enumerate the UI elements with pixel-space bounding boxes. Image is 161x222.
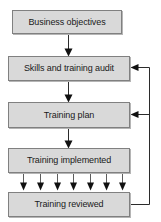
edge-audit-to-plan — [65, 81, 73, 103]
node-label-business-objectives: Business objectives — [28, 18, 105, 27]
node-label-training-reviewed: Training reviewed — [35, 200, 104, 209]
edge-objectives-to-audit — [65, 34, 73, 57]
node-label-training-implemented: Training implemented — [27, 156, 111, 165]
node-label-skills-training-audit: Skills and training audit — [24, 64, 114, 73]
node-training-plan[interactable]: Training plan — [8, 102, 130, 128]
edge-plan-to-implemented — [65, 128, 73, 149]
edge-implemented-to-reviewed — [20, 173, 126, 191]
node-training-reviewed[interactable]: Training reviewed — [8, 192, 130, 217]
node-business-objectives[interactable]: Business objectives — [12, 10, 122, 34]
edge-reviewed-feedback-rail — [130, 64, 150, 205]
node-skills-training-audit[interactable]: Skills and training audit — [8, 56, 130, 81]
edge-reviewed-to-plan — [131, 111, 150, 118]
node-label-training-plan: Training plan — [44, 111, 94, 120]
flowchart-diagram: Business objectives Skills and training … — [0, 0, 161, 222]
node-training-implemented[interactable]: Training implemented — [8, 148, 130, 173]
